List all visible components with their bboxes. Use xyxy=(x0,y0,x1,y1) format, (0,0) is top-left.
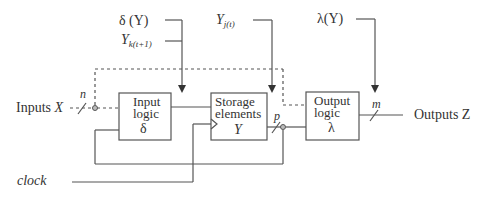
inputs-prefix: Inputs xyxy=(16,100,55,115)
output-logic-label: Output logic xyxy=(314,95,350,119)
delta-y-label: δ (Y) xyxy=(119,14,149,28)
arrow-head-icon xyxy=(268,85,276,93)
output-logic-line2: logic xyxy=(314,107,350,119)
y-next-base: Y xyxy=(121,32,129,47)
storage-line2: elements xyxy=(215,108,261,120)
junction-dot-icon xyxy=(281,125,286,130)
y-next-label: Yk(t+1) xyxy=(121,33,152,51)
y-cur-base: Y xyxy=(216,12,224,27)
lambda-symbol: λ xyxy=(328,121,335,135)
y-symbol: Y xyxy=(234,123,242,137)
n-label: n xyxy=(80,87,86,101)
lambda-y-label: λ(Y) xyxy=(317,12,343,26)
outputs-label: Outputs Z xyxy=(414,108,470,122)
p-label: p xyxy=(274,109,280,123)
inputs-label: Inputs X xyxy=(16,101,63,115)
inputs-var: X xyxy=(55,100,64,115)
m-label: m xyxy=(372,97,381,111)
arrow-head-icon xyxy=(178,85,186,93)
storage-label: Storage elements xyxy=(215,96,261,120)
y-next-sub: k(t+1) xyxy=(129,39,152,49)
y-current-label: Yj(t) xyxy=(216,13,235,31)
junction-dot-icon xyxy=(93,106,98,111)
clock-label: clock xyxy=(17,174,47,188)
arrow-head-icon xyxy=(371,85,379,93)
input-logic-label: Input logic xyxy=(133,96,160,120)
input-logic-line2: logic xyxy=(133,108,160,120)
delta-symbol: δ xyxy=(140,122,147,136)
y-cur-sub: j(t) xyxy=(224,19,235,29)
